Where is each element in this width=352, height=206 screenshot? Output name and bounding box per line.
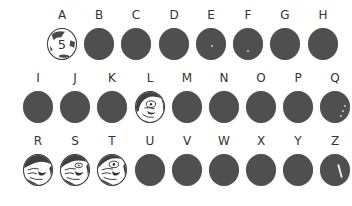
scratch-cell-g[interactable]: G	[268, 8, 302, 64]
scratch-circle-covered[interactable]	[97, 91, 127, 123]
cell-label: W	[207, 134, 241, 148]
scratch-circle-covered[interactable]	[159, 28, 189, 60]
scratch-circle-covered[interactable]	[233, 28, 263, 60]
scratch-cell-b[interactable]: B	[82, 8, 116, 64]
scratch-circle-covered[interactable]	[209, 154, 239, 186]
cartoon-face-icon	[98, 155, 126, 185]
scratch-circle-partial[interactable]	[320, 154, 350, 186]
scratch-cell-h[interactable]: H	[306, 8, 340, 64]
scratch-circle-covered[interactable]	[283, 91, 313, 123]
cell-label: D	[157, 8, 191, 22]
scratch-cell-r[interactable]: R	[21, 134, 55, 190]
scratch-speck	[342, 110, 344, 112]
cartoon-face-icon	[24, 155, 52, 185]
cell-label: H	[306, 8, 340, 22]
scratch-circle-covered[interactable]	[60, 91, 90, 123]
scratch-cell-k[interactable]: K	[95, 71, 129, 127]
scratch-circle-covered[interactable]	[246, 91, 276, 123]
scratch-cell-l[interactable]: L	[133, 71, 167, 127]
cell-label: A	[45, 8, 79, 22]
scratch-cell-z[interactable]: Z	[318, 134, 352, 190]
scratch-circle-covered[interactable]	[135, 154, 165, 186]
scratch-cell-m[interactable]: M	[170, 71, 204, 127]
scratch-cell-t[interactable]: T	[95, 134, 129, 190]
cell-label: T	[95, 134, 129, 148]
scratch-cell-c[interactable]: C	[119, 8, 153, 64]
scratch-cell-x[interactable]: X	[244, 134, 278, 190]
scratch-cell-q[interactable]: Q	[318, 71, 352, 127]
cell-label: K	[95, 71, 129, 85]
cell-label: B	[82, 8, 116, 22]
scratch-circle-revealed[interactable]: 5	[47, 28, 77, 60]
cartoon-face-icon	[136, 92, 164, 122]
scratch-circle-covered[interactable]	[196, 28, 226, 60]
scratch-circle-covered[interactable]	[172, 154, 202, 186]
cell-label: Q	[318, 71, 352, 85]
scratch-speck	[340, 115, 342, 117]
cell-label: J	[58, 71, 92, 85]
scratch-speck	[344, 105, 346, 107]
cell-label: I	[21, 71, 55, 85]
scratch-circle-covered[interactable]	[84, 28, 114, 60]
scratch-cell-a[interactable]: A 5	[45, 8, 79, 64]
scratch-circle-covered[interactable]	[209, 91, 239, 123]
cell-label: F	[231, 8, 265, 22]
scratch-cell-i[interactable]: I	[21, 71, 55, 127]
scratch-speck	[247, 50, 249, 52]
cell-label: M	[170, 71, 204, 85]
cell-label: X	[244, 134, 278, 148]
scratch-cell-d[interactable]: D	[157, 8, 191, 64]
scratch-circle-covered[interactable]	[270, 28, 300, 60]
scratch-cell-n[interactable]: N	[207, 71, 241, 127]
scratch-cell-e[interactable]: E	[194, 8, 228, 64]
scratch-streak	[337, 164, 343, 178]
cell-label: Z	[318, 134, 352, 148]
scratch-cell-w[interactable]: W	[207, 134, 241, 190]
scratch-cell-v[interactable]: V	[170, 134, 204, 190]
scratch-cell-p[interactable]: P	[281, 71, 315, 127]
scratch-cell-u[interactable]: U	[133, 134, 167, 190]
revealed-number: 5	[48, 29, 76, 59]
scratch-circle-covered[interactable]	[121, 28, 151, 60]
scratch-circle-revealed[interactable]	[23, 154, 53, 186]
scratch-cell-o[interactable]: O	[244, 71, 278, 127]
scratch-circle-revealed[interactable]	[97, 154, 127, 186]
cell-label: V	[170, 134, 204, 148]
scratch-cell-s[interactable]: S	[58, 134, 92, 190]
scratch-circle-covered[interactable]	[172, 91, 202, 123]
scratch-cell-f[interactable]: F	[231, 8, 265, 64]
scratch-circle-covered[interactable]	[23, 91, 53, 123]
scratch-circle-covered[interactable]	[308, 28, 338, 60]
cell-label: U	[133, 134, 167, 148]
cell-label: G	[268, 8, 302, 22]
scratch-speck	[211, 45, 213, 47]
cell-label: S	[58, 134, 92, 148]
cell-label: O	[244, 71, 278, 85]
scratch-circle-revealed[interactable]	[135, 91, 165, 123]
scratch-circle-covered[interactable]	[283, 154, 313, 186]
scratch-circle-revealed[interactable]	[60, 154, 90, 186]
scratch-circle-partial[interactable]	[320, 91, 350, 123]
cartoon-face-icon	[61, 155, 89, 185]
scratch-cell-y[interactable]: Y	[281, 134, 315, 190]
cell-label: P	[281, 71, 315, 85]
cell-label: C	[119, 8, 153, 22]
cell-label: E	[194, 8, 228, 22]
scratch-cell-j[interactable]: J	[58, 71, 92, 127]
scratch-circle-covered[interactable]	[246, 154, 276, 186]
cell-label: L	[133, 71, 167, 85]
cell-label: R	[21, 134, 55, 148]
cell-label: Y	[281, 134, 315, 148]
cell-label: N	[207, 71, 241, 85]
